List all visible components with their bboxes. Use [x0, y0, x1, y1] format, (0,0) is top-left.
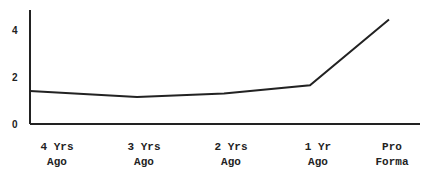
x-category-label: Ago: [134, 156, 154, 168]
y-tick-label: 0: [12, 119, 18, 130]
y-tick-label: 2: [12, 72, 18, 83]
x-category-label: Pro: [382, 141, 402, 153]
x-category-label: Ago: [221, 156, 241, 168]
y-tick-labels: 024: [12, 25, 18, 130]
x-category-label: 4 Yrs: [40, 141, 73, 153]
x-category-labels: 4 YrsAgo3 YrsAgo2 YrsAgo1 YrAgoProForma: [40, 141, 408, 168]
line-chart: 024 4 YrsAgo3 YrsAgo2 YrsAgo1 YrAgoProFo…: [0, 0, 429, 183]
x-category-label: 3 Yrs: [127, 141, 160, 153]
x-category-label: Ago: [308, 156, 328, 168]
x-category-label: Forma: [375, 156, 408, 168]
x-category-label: Ago: [47, 156, 67, 168]
data-line: [30, 19, 389, 97]
x-category-label: 2 Yrs: [214, 141, 247, 153]
y-tick-label: 4: [12, 25, 18, 36]
x-category-label: 1 Yr: [305, 141, 331, 153]
